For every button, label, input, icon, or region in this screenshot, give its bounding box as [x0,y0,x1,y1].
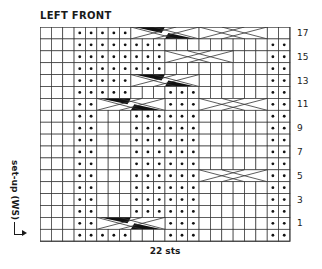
stitch-cell [199,75,210,87]
stitch-cell [97,146,108,158]
purl-dot-icon [158,127,161,130]
stitch-cell [199,63,210,75]
purl-dot-icon [78,162,81,165]
stitch-cell [63,110,74,122]
purl-dot-icon [112,32,115,35]
purl-dot-icon [158,139,161,142]
purl-dot-icon [192,162,195,165]
purl-dot-icon [147,174,150,177]
purl-dot-icon [90,115,93,118]
stitch-cell [176,63,187,75]
purl-dot-icon [271,91,274,94]
stitch-cell [97,206,108,218]
stitch-cell [210,182,221,194]
cable-cross-icon [131,75,199,87]
stitch-cell [40,98,51,110]
stitch-cell [51,51,62,63]
purl-dot-icon [181,103,184,106]
stitch-cell [222,158,233,170]
stitch-cell [210,63,221,75]
purl-dot-icon [90,210,93,213]
stitch-cell [120,146,131,158]
stitch-cell [63,98,74,110]
stitch-cell [63,63,74,75]
row-number-label: 17 [297,28,308,38]
purl-dot-icon [78,186,81,189]
purl-dot-icon [78,67,81,70]
stitch-cell [63,122,74,134]
purl-dot-icon [78,103,81,106]
purl-dot-icon [283,174,286,177]
stitch-cell [199,229,210,241]
purl-dot-icon [192,222,195,225]
cable-cross-icon [97,217,165,229]
stitch-cell [97,194,108,206]
purl-dot-icon [169,198,172,201]
row-number-label: 7 [297,147,303,157]
purl-dot-icon [78,222,81,225]
stitch-cell [51,182,62,194]
purl-dot-icon [169,210,172,213]
purl-dot-icon [169,186,172,189]
stitch-cell [222,134,233,146]
purl-dot-icon [181,234,184,237]
purl-dot-icon [271,79,274,82]
purl-dot-icon [90,43,93,46]
stitch-cell [108,134,119,146]
stitch-cell [40,194,51,206]
stitch-cell [51,158,62,170]
purl-dot-icon [271,127,274,130]
stitch-cell [108,182,119,194]
purl-dot-icon [135,174,138,177]
stitch-cell [233,134,244,146]
stitch-cell [63,87,74,99]
purl-dot-icon [181,162,184,165]
purl-dot-icon [124,91,127,94]
purl-dot-icon [135,198,138,201]
stitch-cell [244,146,255,158]
stitch-cell [131,229,142,241]
stitch-cell [97,158,108,170]
purl-dot-icon [112,67,115,70]
stitch-cell [256,75,267,87]
stitch-cell [199,110,210,122]
purl-dot-icon [78,32,81,35]
stitch-cell [97,182,108,194]
stitch-cell [256,87,267,99]
stitch-cell [256,229,267,241]
purl-dot-icon [271,139,274,142]
stitch-cell [210,39,221,51]
stitch-cell [244,63,255,75]
purl-dot-icon [78,139,81,142]
stitch-cell [51,217,62,229]
purl-dot-icon [78,91,81,94]
purl-dot-icon [78,151,81,154]
stitch-cell [188,39,199,51]
purl-dot-icon [283,162,286,165]
purl-dot-icon [135,151,138,154]
purl-dot-icon [271,103,274,106]
stitch-cell [40,51,51,63]
row-number-label: 3 [297,195,303,205]
stitch-cell [120,134,131,146]
stitch-cell [256,134,267,146]
stitch-cell [222,75,233,87]
purl-dot-icon [90,55,93,58]
purl-dot-icon [283,43,286,46]
cable-cross-icon [199,98,267,110]
purl-dot-icon [78,234,81,237]
purl-dot-icon [135,115,138,118]
stitch-cell [108,122,119,134]
purl-dot-icon [271,162,274,165]
stitch-cell [51,229,62,241]
stitch-cell [233,229,244,241]
stitch-cell [210,75,221,87]
purl-dot-icon [112,55,115,58]
purl-dot-icon [271,186,274,189]
purl-dot-icon [181,198,184,201]
purl-dot-icon [147,67,150,70]
purl-dot-icon [169,162,172,165]
purl-dot-icon [78,198,81,201]
purl-dot-icon [135,67,138,70]
stitch-cell [108,110,119,122]
